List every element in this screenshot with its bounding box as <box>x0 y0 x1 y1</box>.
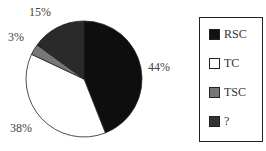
legend-item-tsc: TSC <box>209 85 246 100</box>
legend-item-rsc: RSC <box>209 27 247 42</box>
legend-label: ? <box>224 114 229 129</box>
legend: RSC TC TSC ? <box>199 17 263 142</box>
unknown-swatch-icon <box>209 116 220 127</box>
legend-label: RSC <box>224 27 247 42</box>
legend-item-unknown: ? <box>209 114 229 129</box>
legend-label: TSC <box>224 85 246 100</box>
slice-label-rsc: 44% <box>148 60 170 75</box>
slice-label-unknown: 15% <box>29 5 51 20</box>
rsc-swatch-icon <box>209 29 220 40</box>
legend-label: TC <box>224 56 239 71</box>
slice-label-tc: 38% <box>10 121 32 136</box>
tsc-swatch-icon <box>209 87 220 98</box>
legend-item-tc: TC <box>209 56 239 71</box>
tc-swatch-icon <box>209 58 220 69</box>
slice-label-tsc: 3% <box>8 30 24 45</box>
